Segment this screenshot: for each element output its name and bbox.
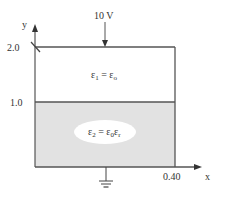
x-axis-arrowhead bbox=[194, 164, 202, 170]
y-tick-label-1: 1.0 bbox=[10, 97, 23, 108]
capacitor-diagram: 10 V y 2.0 1.0 0.40 x ε1 = εo ε2 = ε0εr bbox=[0, 0, 226, 201]
y-axis-arrowhead bbox=[32, 24, 38, 32]
x-tick-label: 0.40 bbox=[163, 171, 181, 182]
y-tick-label-2: 2.0 bbox=[7, 42, 20, 53]
voltage-label: 10 V bbox=[94, 10, 114, 21]
y-axis-label: y bbox=[22, 19, 27, 30]
x-axis-label: x bbox=[205, 171, 210, 182]
voltage-arrow-icon bbox=[102, 40, 108, 47]
